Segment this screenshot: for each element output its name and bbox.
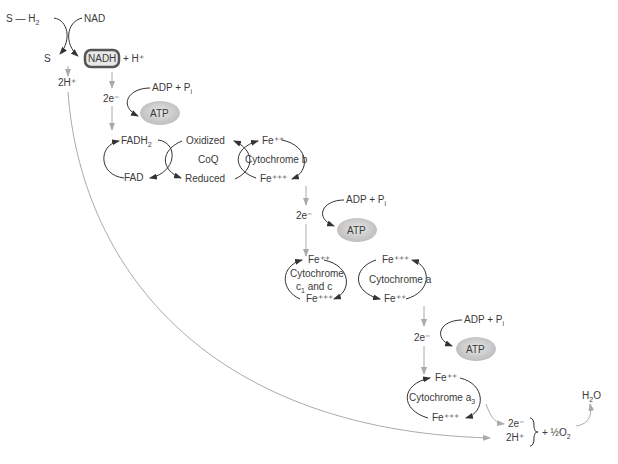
adp-label-3: ADP + Pi bbox=[464, 314, 504, 327]
adp-label-2: ADP + Pi bbox=[346, 194, 386, 207]
substrate-reduced: S — H2 bbox=[6, 13, 39, 26]
cyt-c-bottom: Fe⁺⁺⁺ bbox=[306, 293, 333, 304]
svg-text:S — H2: S — H2 bbox=[6, 13, 39, 26]
cyt-a-name: Cytochrome a bbox=[369, 274, 432, 285]
nadh-label: NADH bbox=[88, 53, 116, 64]
svg-text:ATP: ATP bbox=[150, 108, 169, 119]
water-label: H2O bbox=[582, 390, 601, 403]
cyt-b-top: Fe⁺⁺ bbox=[262, 135, 284, 146]
final-electrons: 2e⁻ bbox=[508, 418, 524, 429]
cyt-b-bottom: Fe⁺⁺⁺ bbox=[260, 173, 287, 184]
electrons-label-2: 2e⁻ bbox=[296, 210, 312, 221]
electrons-label-1: 2e⁻ bbox=[103, 93, 119, 104]
coq-name: CoQ bbox=[198, 154, 219, 165]
coq-oxidized: Oxidized bbox=[186, 135, 225, 146]
cyt-c-top: Fe⁺⁺ bbox=[308, 254, 330, 265]
substrate-oxidized: S bbox=[44, 53, 51, 64]
fad-label: FAD bbox=[124, 172, 143, 183]
cyt-c-name-1: Cytochrome bbox=[290, 268, 344, 279]
cyt-a-top: Fe⁺⁺⁺ bbox=[382, 254, 409, 265]
electrons-label-3: 2e⁻ bbox=[414, 332, 430, 343]
cyt-a-bottom: Fe⁺⁺ bbox=[384, 293, 406, 304]
cyt-b-name: Cytochrome b bbox=[245, 154, 308, 165]
proton-label: + H⁺ bbox=[123, 53, 144, 64]
adp-label-1: ADP + Pi bbox=[152, 82, 192, 95]
fadh2-label: FADH2 bbox=[121, 135, 152, 148]
cyt-a3-top: Fe⁺⁺ bbox=[435, 372, 457, 383]
svg-text:ATP: ATP bbox=[347, 225, 366, 236]
final-oxygen: + ½O2 bbox=[542, 427, 571, 440]
cyt-a3-bottom: Fe⁺⁺⁺ bbox=[432, 412, 459, 423]
electron-transport-chain-diagram: S — H2 NAD S NADH + H⁺ 2H⁺ 2e⁻ ADP + Pi … bbox=[0, 0, 618, 464]
final-protons: 2H⁺ bbox=[506, 432, 524, 443]
cyt-a3-name: Cytochrome a3 bbox=[409, 392, 475, 405]
protons-top: 2H⁺ bbox=[58, 77, 76, 88]
coq-reduced: Reduced bbox=[185, 173, 225, 184]
nad-label: NAD bbox=[84, 13, 105, 24]
svg-text:ATP: ATP bbox=[466, 344, 485, 355]
